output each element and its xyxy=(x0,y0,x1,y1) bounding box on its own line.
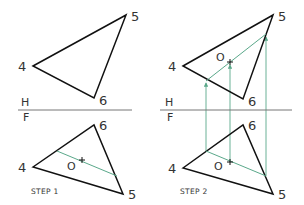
diagram-canvas: 4 5 6 H F 4 6 5 O STEP 1 4 5 6 xyxy=(0,0,304,205)
step2-top-vertex-5-label: 5 xyxy=(278,9,286,24)
step2-top-view-triangle xyxy=(183,15,273,99)
step1-front-vertex-6-label: 6 xyxy=(99,118,107,133)
step1-top-view-triangle xyxy=(33,15,126,98)
step1-point-o-label: O xyxy=(67,160,76,173)
step2-plane-h-label: H xyxy=(165,96,173,109)
step2-front-vertex-6-label: 6 xyxy=(248,118,256,133)
step2-top-point-o-label: O xyxy=(216,51,225,64)
step1-front-vertex-5-label: 5 xyxy=(128,187,136,202)
descriptive-geometry-figure: 4 5 6 H F 4 6 5 O STEP 1 4 5 6 xyxy=(0,0,304,205)
step2-panel: 4 5 6 O H F 4 6 5 O STEP 2 xyxy=(160,9,292,202)
step1-top-vertex-6-label: 6 xyxy=(99,93,107,108)
step1-caption: STEP 1 xyxy=(31,187,59,196)
step2-top-vertex-6-label: 6 xyxy=(248,94,256,109)
step2-front-point-o-label: O xyxy=(214,160,223,173)
step1-panel: 4 5 6 H F 4 6 5 O STEP 1 xyxy=(18,9,139,202)
step1-plane-f-label: F xyxy=(23,111,29,124)
step2-caption: STEP 2 xyxy=(180,187,208,196)
step2-front-view-triangle xyxy=(183,125,273,194)
step2-front-vertex-5-label: 5 xyxy=(278,187,286,202)
step2-top-construction-line xyxy=(206,34,266,81)
step1-top-vertex-4-label: 4 xyxy=(18,59,26,74)
step2-plane-f-label: F xyxy=(167,111,173,124)
step2-front-vertex-4-label: 4 xyxy=(168,161,176,176)
step1-front-vertex-4-label: 4 xyxy=(18,160,26,175)
step1-plane-h-label: H xyxy=(21,96,29,109)
step2-top-vertex-4-label: 4 xyxy=(168,59,176,74)
step1-top-vertex-5-label: 5 xyxy=(131,9,139,24)
step1-front-construction-line xyxy=(57,151,117,176)
